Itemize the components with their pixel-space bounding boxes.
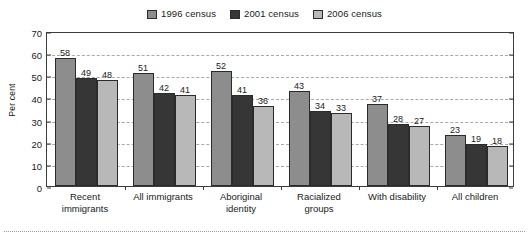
x-axis-label: Racializedgroups bbox=[280, 191, 358, 214]
bar-value-label: 49 bbox=[81, 68, 91, 78]
bar[interactable]: 52 bbox=[211, 71, 232, 186]
legend-swatch-2001-census bbox=[230, 10, 240, 19]
bar-slot: 18 bbox=[487, 33, 508, 186]
legend-item-2006-census: 2006 census bbox=[313, 9, 382, 19]
bar[interactable]: 27 bbox=[409, 126, 430, 186]
bar-slot: 19 bbox=[466, 33, 487, 186]
x-axis-label-line: Aboriginal bbox=[202, 191, 280, 203]
x-axis-label-line: identity bbox=[202, 203, 280, 215]
bar-slot: 51 bbox=[133, 33, 154, 186]
bar-slot: 27 bbox=[409, 33, 430, 186]
bar-group: 584948 bbox=[47, 33, 125, 186]
x-axis-label-line: Racialized bbox=[280, 191, 358, 203]
bar-slot: 43 bbox=[289, 33, 310, 186]
x-axis-label: All children bbox=[436, 191, 514, 203]
y-tick-label: 40 bbox=[31, 94, 42, 105]
bar-value-label: 23 bbox=[450, 125, 460, 135]
bar-slot: 48 bbox=[97, 33, 118, 186]
legend-swatch-1996-census bbox=[147, 10, 157, 19]
x-tick-mark bbox=[437, 186, 438, 190]
y-tick-label: 30 bbox=[31, 116, 42, 127]
x-axis-label-line: Recent bbox=[46, 191, 124, 203]
bar-value-label: 43 bbox=[294, 81, 304, 91]
bar[interactable]: 36 bbox=[253, 106, 274, 186]
x-tick-mark bbox=[359, 186, 360, 190]
bar-group: 433433 bbox=[281, 33, 359, 186]
plot-area: 010203040506070 584948514241524136433433… bbox=[46, 32, 514, 187]
bar[interactable]: 41 bbox=[232, 95, 253, 186]
bar[interactable]: 42 bbox=[154, 93, 175, 186]
x-axis-label: With disability bbox=[358, 191, 436, 203]
bar[interactable]: 28 bbox=[388, 124, 409, 186]
bar[interactable]: 58 bbox=[55, 58, 76, 186]
bar-value-label: 51 bbox=[138, 63, 148, 73]
bar-slot: 37 bbox=[367, 33, 388, 186]
legend-label-1996-census: 1996 census bbox=[161, 9, 216, 19]
bar[interactable]: 49 bbox=[76, 78, 97, 187]
bar-slot: 41 bbox=[175, 33, 196, 186]
x-axis-label: Recentimmigrants bbox=[46, 191, 124, 214]
bar-value-label: 34 bbox=[315, 101, 325, 111]
y-tick-label: 0 bbox=[37, 183, 42, 194]
bar-group: 514241 bbox=[125, 33, 203, 186]
bar[interactable]: 51 bbox=[133, 73, 154, 186]
bar[interactable]: 48 bbox=[97, 80, 118, 186]
bar-group: 524136 bbox=[203, 33, 281, 186]
bar[interactable]: 34 bbox=[310, 111, 331, 186]
bar-value-label: 18 bbox=[492, 136, 502, 146]
y-tick-mark bbox=[47, 188, 51, 189]
bar-value-label: 36 bbox=[258, 96, 268, 106]
y-axis-title: Per cent bbox=[7, 70, 17, 130]
bar-slot: 52 bbox=[211, 33, 232, 186]
y-tick-label: 20 bbox=[31, 138, 42, 149]
y-tick-label: 10 bbox=[31, 160, 42, 171]
x-tick-mark bbox=[125, 186, 126, 190]
y-tick-label: 70 bbox=[31, 28, 42, 39]
bar-value-label: 52 bbox=[216, 61, 226, 71]
bar-slot: 23 bbox=[445, 33, 466, 186]
bar-value-label: 48 bbox=[102, 70, 112, 80]
bar-slot: 28 bbox=[388, 33, 409, 186]
bar-slot: 34 bbox=[310, 33, 331, 186]
x-axis-labels: RecentimmigrantsAll immigrantsAboriginal… bbox=[46, 191, 514, 225]
bar-value-label: 28 bbox=[393, 114, 403, 124]
x-tick-mark bbox=[281, 186, 282, 190]
y-tick-label: 60 bbox=[31, 50, 42, 61]
bar-value-label: 33 bbox=[336, 103, 346, 113]
bar-value-label: 27 bbox=[414, 116, 424, 126]
bar[interactable]: 18 bbox=[487, 146, 508, 186]
bar-chart-figure: 1996 census 2001 census 2006 census Per … bbox=[0, 0, 529, 238]
x-tick-mark bbox=[203, 186, 204, 190]
bar-group: 231918 bbox=[437, 33, 515, 186]
y-tick-mark bbox=[509, 188, 513, 189]
bar-group: 372827 bbox=[359, 33, 437, 186]
bar-series-container: 584948514241524136433433372827231918 bbox=[47, 33, 513, 186]
bar-slot: 33 bbox=[331, 33, 352, 186]
bar-slot: 49 bbox=[76, 33, 97, 186]
bar-value-label: 37 bbox=[372, 94, 382, 104]
legend-item-2001-census: 2001 census bbox=[230, 9, 299, 19]
chart-legend: 1996 census 2001 census 2006 census bbox=[0, 9, 529, 19]
bar[interactable]: 43 bbox=[289, 91, 310, 186]
bar[interactable]: 19 bbox=[466, 144, 487, 186]
bar[interactable]: 37 bbox=[367, 104, 388, 186]
legend-item-1996-census: 1996 census bbox=[147, 9, 216, 19]
x-axis-label-line: All children bbox=[436, 191, 514, 203]
bar-value-label: 58 bbox=[60, 48, 70, 58]
bar-slot: 36 bbox=[253, 33, 274, 186]
bar[interactable]: 41 bbox=[175, 95, 196, 186]
bar-slot: 42 bbox=[154, 33, 175, 186]
bar-value-label: 41 bbox=[237, 85, 247, 95]
x-axis-label-line: All immigrants bbox=[124, 191, 202, 203]
x-axis-label: All immigrants bbox=[124, 191, 202, 203]
bar[interactable]: 23 bbox=[445, 135, 466, 186]
bar-slot: 58 bbox=[55, 33, 76, 186]
bar[interactable]: 33 bbox=[331, 113, 352, 186]
x-axis-label-line: groups bbox=[280, 203, 358, 215]
y-tick-label: 50 bbox=[31, 72, 42, 83]
bar-slot: 41 bbox=[232, 33, 253, 186]
x-axis-label-line: With disability bbox=[358, 191, 436, 203]
bar-value-label: 19 bbox=[471, 134, 481, 144]
bottom-divider bbox=[4, 231, 525, 232]
legend-label-2001-census: 2001 census bbox=[244, 9, 299, 19]
